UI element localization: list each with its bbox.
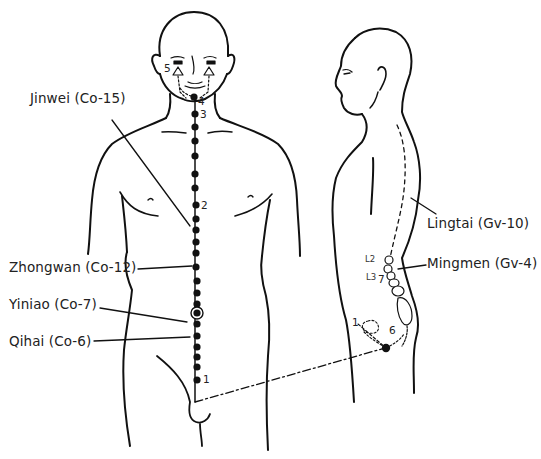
label-lingtai: Lingtai (Gv-10) (427, 215, 529, 231)
marker-7: 7 (378, 273, 385, 285)
umbilicus-target-icon (191, 307, 203, 319)
label-yiniao: Yiniao (Co-7) (9, 296, 97, 312)
marker-5: 5 (164, 62, 171, 74)
marker-l2: L2 (365, 254, 375, 264)
connector-dashdot-line (195, 348, 385, 402)
label-zhongwan: Zhongwan (Co-12) (9, 259, 136, 275)
face-details (171, 56, 216, 98)
marker-l3: L3 (366, 272, 376, 282)
marker-3: 3 (200, 108, 207, 120)
marker-side-1: 1 (352, 316, 359, 328)
marker-2: 2 (201, 199, 208, 211)
acupoint-dots (190, 93, 390, 383)
label-jinwei: Jinwei (Co-15) (30, 90, 126, 106)
marker-4: 4 (198, 95, 205, 107)
label-qihai: Qihai (Co-6) (9, 333, 91, 349)
marker-6: 6 (389, 324, 396, 336)
side-figure-outline (333, 29, 420, 402)
marker-1: 1 (203, 373, 210, 385)
label-mingmen: Mingmen (Gv-4) (427, 255, 537, 271)
acupuncture-diagram: Jinwei (Co-15) Zhongwan (Co-12) Yiniao (… (0, 0, 541, 459)
